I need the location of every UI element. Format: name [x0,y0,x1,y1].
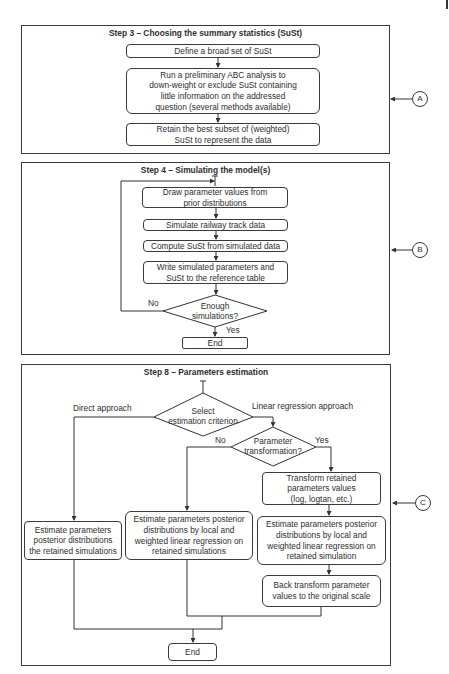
marker-a: A [412,91,428,107]
step8-yes-label: Yes [315,435,329,445]
step4-end-box: End [182,337,248,349]
step8-linear-estimate-transformed-box: Estimate parameters posterior distributi… [257,516,386,565]
step4-draw-parameters-box: Draw parameter values from prior distrib… [142,187,288,208]
step4-write-reference-box: Write simulated parameters and SuSt to t… [143,261,288,284]
step8-estimation-criterion-decision: Select estimation criterion [158,406,248,426]
step3-title: Step 3 – Choosing the summary statistics… [21,28,390,38]
step4-no-label: No [148,298,159,308]
step8-linear-regression-label: Linear regression approach [252,401,353,411]
step3-retain-subset-box: Retain the best subset of (weighted) SuS… [126,123,320,146]
step8-back-transform-box: Back transform parameter values to the o… [262,575,381,607]
step8-end-box: End [168,643,217,661]
step4-title: Step 4 – Simulating the model(s) [21,165,390,175]
step8-direct-approach-label: Direct approach [73,403,132,413]
step8-transform-values-box: Transform retained parameters values (lo… [262,472,381,505]
step8-parameter-transformation-decision: Parameter transformation? [233,436,313,456]
step8-linear-estimate-untransformed-box: Estimate parameters posterior distributi… [125,511,253,560]
step3-define-sust-box: Define a broad set of SuSt [126,44,320,58]
step8-title: Step 8 – Parameters estimation [21,367,391,377]
marker-c: C [415,495,431,511]
step3-preliminary-abc-box: Run a preliminary ABC analysis to down-w… [126,68,320,114]
step8-no-label: No [215,435,226,445]
step4-compute-sust-box: Compute SuSt from simulated data [143,240,288,252]
step4-simulate-data-box: Simulate railway track data [143,219,288,231]
step4-enough-simulations-decision: Enough simulations? [175,301,255,321]
step8-direct-estimate-box: Estimate parameters posterior distributi… [24,521,122,560]
step4-yes-label: Yes [226,325,240,335]
marker-b: B [412,242,428,258]
